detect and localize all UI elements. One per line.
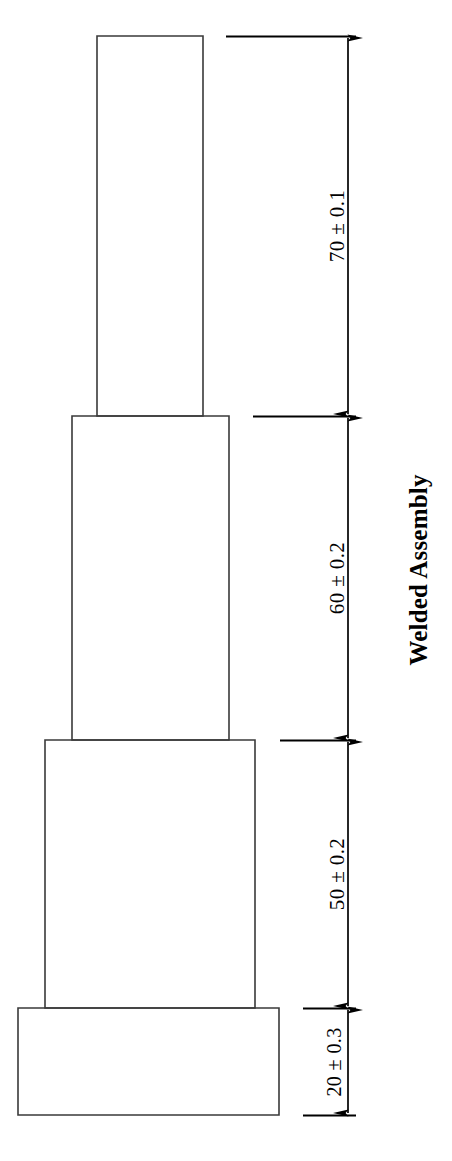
drawing-title: Welded Assembly <box>406 474 431 665</box>
part-upper-middle-cylinder <box>72 416 229 740</box>
dimension-label-70: 70 ± 0.1 <box>327 190 348 262</box>
part-lower-middle-cylinder <box>45 740 255 1008</box>
drawing-canvas <box>0 0 452 1161</box>
dimension-label-60: 60 ± 0.2 <box>327 542 348 614</box>
dimension-label-50: 50 ± 0.2 <box>327 838 348 910</box>
part-base-flange <box>18 1008 279 1115</box>
part-top-cylinder <box>97 36 203 416</box>
part-outlines <box>18 36 279 1115</box>
dimension-label-20: 20 ± 0.3 <box>324 1027 344 1096</box>
technical-drawing-sheet: 70 ± 0.1 60 ± 0.2 50 ± 0.2 20 ± 0.3 Weld… <box>0 0 452 1161</box>
